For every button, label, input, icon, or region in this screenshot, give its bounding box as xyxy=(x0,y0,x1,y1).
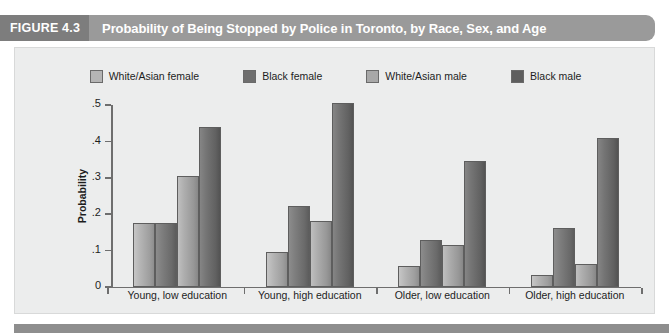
x-axis-category-label: Older, high education xyxy=(525,289,624,301)
chart-bar xyxy=(442,245,464,287)
legend-entry: White/Asian female xyxy=(90,70,199,83)
chart-bar xyxy=(133,223,155,287)
chart-bar xyxy=(199,127,221,287)
y-axis-tick-label: .5 xyxy=(92,97,101,109)
chart-bar xyxy=(597,138,619,287)
x-axis-category-label: Young, low education xyxy=(128,289,227,301)
x-axis-separator-tick xyxy=(509,288,511,294)
legend-entry: Black female xyxy=(243,70,322,83)
legend-swatch-icon xyxy=(90,70,103,83)
chart-bar xyxy=(177,176,199,287)
x-axis-separator-tick xyxy=(376,288,378,294)
legend-entry: Black male xyxy=(511,70,581,83)
chart-bar xyxy=(531,275,553,287)
chart-bar xyxy=(398,266,420,287)
legend-label: Black female xyxy=(262,70,322,82)
chart-bar xyxy=(288,206,310,287)
chart-bar xyxy=(310,221,332,287)
chart-bars xyxy=(111,105,641,287)
x-axis-category-label: Young, high education xyxy=(258,289,362,301)
chart-bar xyxy=(464,161,486,287)
y-axis-tick-label: .2 xyxy=(92,206,101,218)
y-axis-title: Probability xyxy=(76,169,88,223)
figure-number-label: FIGURE 4.3 xyxy=(0,15,89,41)
chart-bar xyxy=(553,228,575,287)
figure-container: FIGURE 4.3 Probability of Being Stopped … xyxy=(0,0,669,336)
y-axis-tick-label: .4 xyxy=(92,134,101,146)
chart-legend: White/Asian femaleBlack femaleWhite/Asia… xyxy=(15,68,656,84)
y-axis-tick-label: .1 xyxy=(92,243,101,255)
chart-bar xyxy=(575,264,597,287)
y-axis-tick-label: 0 xyxy=(95,279,101,291)
figure-header-banner: FIGURE 4.3 Probability of Being Stopped … xyxy=(0,15,655,41)
chart-panel: White/Asian femaleBlack femaleWhite/Asia… xyxy=(14,47,655,314)
x-axis-separator-tick xyxy=(107,288,109,294)
legend-entry: White/Asian male xyxy=(366,70,467,83)
bottom-rule xyxy=(14,324,669,333)
x-axis-separator-tick xyxy=(641,288,643,294)
legend-swatch-icon xyxy=(511,70,524,83)
legend-label: White/Asian male xyxy=(385,70,467,82)
chart-bar xyxy=(420,240,442,287)
chart-bar xyxy=(266,252,288,287)
x-axis-separator-tick xyxy=(244,288,246,294)
x-axis-category-label: Older, low education xyxy=(395,289,490,301)
legend-swatch-icon xyxy=(243,70,256,83)
chart-bar xyxy=(155,223,177,287)
figure-title: Probability of Being Stopped by Police i… xyxy=(89,21,546,36)
legend-label: White/Asian female xyxy=(109,70,199,82)
chart-bar xyxy=(332,103,354,287)
legend-label: Black male xyxy=(530,70,581,82)
chart-axes: Probability 0.1.2.3.4.5 Young, low educa… xyxy=(111,105,641,287)
legend-swatch-icon xyxy=(366,70,379,83)
y-axis-tick-label: .3 xyxy=(92,170,101,182)
